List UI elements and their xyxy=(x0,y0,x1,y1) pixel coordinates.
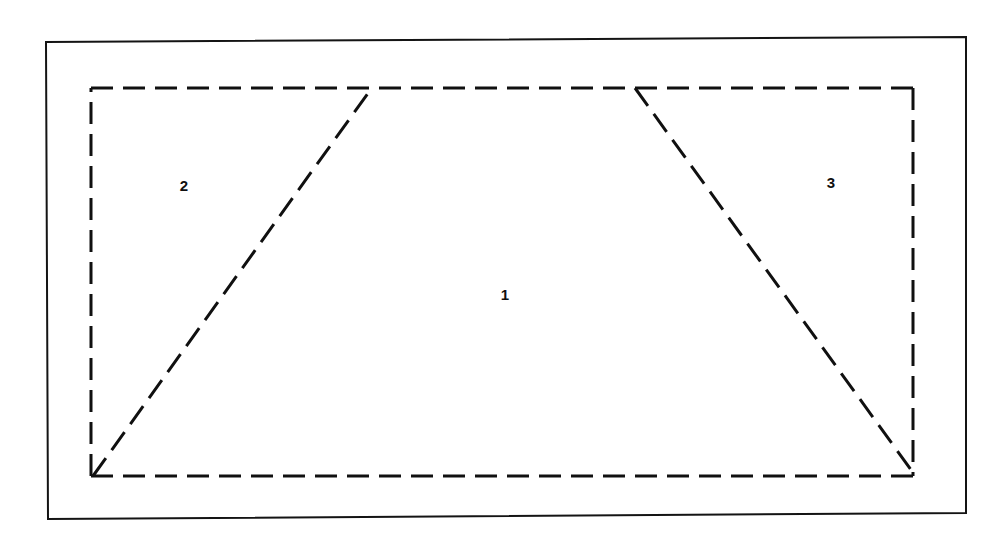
figure-svg: 1 2 3 xyxy=(0,0,1004,539)
outer-solid-rectangle xyxy=(46,37,966,519)
figure-canvas: 1 2 3 xyxy=(0,0,1004,539)
left-diagonal-divider xyxy=(93,89,371,476)
region-label-2: 2 xyxy=(180,177,188,194)
right-diagonal-divider xyxy=(635,88,914,474)
region-label-1: 1 xyxy=(501,286,509,303)
region-label-3: 3 xyxy=(827,174,835,191)
